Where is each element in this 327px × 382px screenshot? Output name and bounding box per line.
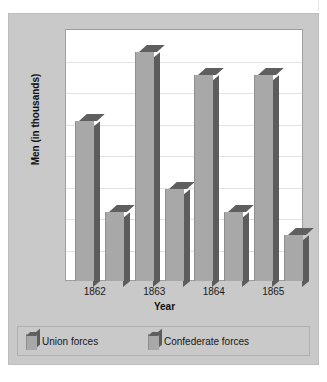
x-axis-title: Year bbox=[9, 301, 320, 312]
bar-confederate-forces-1865 bbox=[284, 235, 302, 281]
bar-cap bbox=[198, 68, 224, 75]
x-tick-1863: 1863 bbox=[131, 286, 177, 297]
bar-side bbox=[123, 212, 130, 287]
page-rule bbox=[318, 0, 319, 11]
bar-face bbox=[224, 212, 243, 281]
x-tick-1864: 1864 bbox=[191, 286, 237, 297]
bar-cap bbox=[139, 45, 165, 52]
bar-face bbox=[135, 52, 154, 281]
legend-swatch-icon bbox=[26, 332, 36, 350]
bar-confederate-forces-1862 bbox=[105, 212, 123, 281]
y-axis-title: Men (in thousands) bbox=[30, 45, 41, 195]
bar-union-forces-1865 bbox=[254, 75, 272, 281]
bar-group bbox=[125, 29, 185, 281]
bar-face bbox=[105, 212, 124, 281]
bar-cap bbox=[258, 68, 284, 75]
legend-swatch-icon bbox=[148, 332, 158, 350]
legend-label: Confederate forces bbox=[164, 336, 249, 347]
bar-side bbox=[302, 235, 309, 287]
bar-group bbox=[184, 29, 244, 281]
legend-entry-union-forces[interactable]: Union forces bbox=[26, 332, 98, 350]
legend-swatch-face bbox=[26, 334, 37, 350]
bar-confederate-forces-1863 bbox=[165, 189, 183, 281]
legend-swatch-face bbox=[148, 334, 159, 350]
x-tick-1862: 1862 bbox=[72, 286, 118, 297]
bar-face bbox=[75, 121, 94, 281]
bar-cap bbox=[79, 114, 105, 121]
bar-union-forces-1862 bbox=[75, 121, 93, 281]
bar-face bbox=[254, 75, 273, 281]
bar-face bbox=[194, 75, 213, 281]
bar-face bbox=[284, 235, 303, 281]
bar-side bbox=[212, 75, 219, 287]
bar-union-forces-1864 bbox=[194, 75, 212, 281]
legend-label: Union forces bbox=[42, 336, 98, 347]
bar-confederate-forces-1864 bbox=[224, 212, 242, 281]
bars-layer bbox=[65, 29, 303, 281]
bar-face bbox=[165, 189, 184, 281]
bottom-gutter bbox=[0, 366, 327, 382]
bar-side bbox=[183, 189, 190, 287]
bar-side bbox=[93, 121, 100, 287]
legend-entry-confederate-forces[interactable]: Confederate forces bbox=[148, 332, 249, 350]
bar-side bbox=[242, 212, 249, 287]
chart-figure-panel: 1862186318641865 Year Men (in thousands)… bbox=[8, 13, 319, 365]
chart-legend: Union forcesConfederate forces bbox=[17, 326, 310, 356]
x-tick-1865: 1865 bbox=[250, 286, 296, 297]
chart-screenshot: 1862186318641865 Year Men (in thousands)… bbox=[0, 0, 327, 382]
bar-group bbox=[244, 29, 304, 281]
bar-union-forces-1863 bbox=[135, 52, 153, 281]
bar-cap bbox=[288, 228, 314, 235]
bar-side bbox=[272, 75, 279, 287]
cropped-caption-strip bbox=[0, 0, 327, 11]
bar-side bbox=[153, 52, 160, 287]
bar-group bbox=[65, 29, 125, 281]
